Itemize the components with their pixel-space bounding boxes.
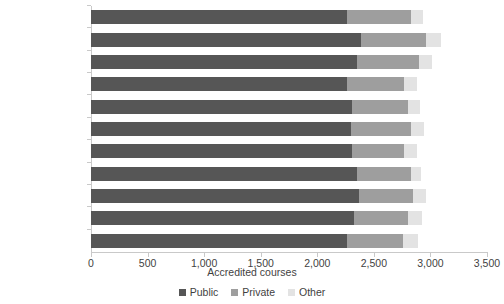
y-axis-tick: [87, 5, 91, 6]
chart-legend: PublicPrivateOther: [0, 286, 504, 298]
legend-label: Public: [190, 286, 219, 298]
legend-swatch-public: [179, 289, 186, 296]
bar-segment-other[interactable]: [411, 167, 421, 181]
stacked-bar[interactable]: [91, 144, 417, 158]
chart-category-row: December 2021: [91, 118, 487, 140]
y-axis-tick: [87, 229, 91, 230]
bar-segment-public[interactable]: [91, 211, 354, 225]
stacked-bar[interactable]: [91, 211, 422, 225]
legend-swatch-private: [231, 289, 238, 296]
bar-segment-private[interactable]: [359, 189, 414, 203]
stacked-bar[interactable]: [91, 234, 418, 248]
chart-category-row: January 2022: [91, 95, 487, 117]
bar-segment-private[interactable]: [347, 10, 411, 24]
bar-segment-other[interactable]: [411, 122, 424, 136]
chart-category-row: May 2022: [91, 6, 487, 28]
chart-category-row: October 2021: [91, 163, 487, 185]
y-axis-tick: [87, 206, 91, 207]
bar-segment-public[interactable]: [91, 122, 351, 136]
y-axis-tick: [87, 184, 91, 185]
bar-segment-private[interactable]: [361, 33, 426, 47]
bar-segment-private[interactable]: [347, 234, 403, 248]
stacked-bar[interactable]: [91, 189, 426, 203]
stacked-bar[interactable]: [91, 122, 424, 136]
bar-segment-other[interactable]: [413, 189, 426, 203]
stacked-bar[interactable]: [91, 10, 423, 24]
y-axis-tick: [87, 72, 91, 73]
bar-segment-private[interactable]: [354, 211, 408, 225]
legend-item-public[interactable]: Public: [179, 286, 219, 298]
y-axis-tick: [87, 50, 91, 51]
bar-segment-other[interactable]: [426, 33, 440, 47]
legend-swatch-other: [288, 289, 295, 296]
stacked-bar[interactable]: [91, 100, 420, 114]
chart-category-row: August 2021: [91, 207, 487, 229]
x-axis-title: Accredited courses: [0, 266, 504, 278]
plot-area: May 2022April 2022March 2022February 202…: [91, 6, 487, 252]
bar-segment-public[interactable]: [91, 77, 347, 91]
bar-segment-private[interactable]: [352, 100, 408, 114]
legend-label: Other: [299, 286, 325, 298]
chart-category-row: February 2022: [91, 73, 487, 95]
x-axis-line: [91, 252, 488, 253]
bar-segment-private[interactable]: [357, 55, 418, 69]
chart-category-row: March 2022: [91, 51, 487, 73]
bar-segment-other[interactable]: [419, 55, 432, 69]
bar-segment-other[interactable]: [411, 10, 423, 24]
stacked-bar[interactable]: [91, 55, 432, 69]
bar-segment-public[interactable]: [91, 55, 357, 69]
bar-segment-other[interactable]: [404, 144, 417, 158]
chart-category-row: July 2021: [91, 230, 487, 252]
bar-segment-public[interactable]: [91, 100, 352, 114]
y-axis-tick: [87, 139, 91, 140]
stacked-bar[interactable]: [91, 77, 417, 91]
bar-segment-other[interactable]: [408, 100, 420, 114]
y-axis-tick: [87, 162, 91, 163]
bar-segment-private[interactable]: [352, 144, 404, 158]
legend-item-other[interactable]: Other: [288, 286, 325, 298]
bar-segment-other[interactable]: [403, 234, 418, 248]
bar-segment-private[interactable]: [351, 122, 411, 136]
y-axis-tick: [87, 94, 91, 95]
stacked-bar-chart: May 2022April 2022March 2022February 202…: [0, 0, 504, 304]
stacked-bar[interactable]: [91, 167, 421, 181]
chart-category-row: September 2021: [91, 185, 487, 207]
bar-segment-public[interactable]: [91, 10, 347, 24]
bar-segment-private[interactable]: [347, 77, 404, 91]
chart-category-row: November 2021: [91, 140, 487, 162]
bar-segment-public[interactable]: [91, 167, 357, 181]
legend-item-private[interactable]: Private: [231, 286, 275, 298]
y-axis-tick: [87, 117, 91, 118]
legend-label: Private: [242, 286, 275, 298]
bar-segment-public[interactable]: [91, 144, 352, 158]
bar-segment-public[interactable]: [91, 234, 347, 248]
stacked-bar[interactable]: [91, 33, 441, 47]
bar-segment-other[interactable]: [404, 77, 417, 91]
bar-segment-public[interactable]: [91, 189, 359, 203]
chart-category-row: April 2022: [91, 28, 487, 50]
bar-segment-public[interactable]: [91, 33, 361, 47]
bar-segment-private[interactable]: [357, 167, 411, 181]
bar-segment-other[interactable]: [408, 211, 422, 225]
y-axis-tick: [87, 27, 91, 28]
